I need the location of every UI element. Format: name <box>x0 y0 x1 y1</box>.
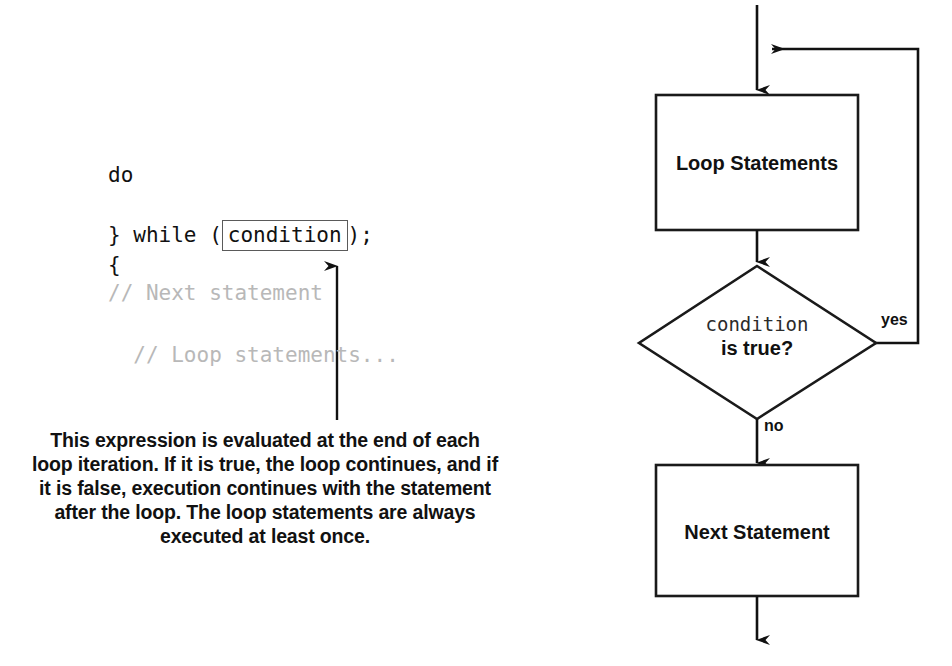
code-line-do: do <box>108 160 399 190</box>
code-listing: do { // Loop statements... <box>108 100 399 430</box>
caption-false-word: false <box>77 477 121 499</box>
diagram-page: do { // Loop statements... } while ( con… <box>0 0 952 666</box>
next-statement-label: Next Statement <box>657 521 857 544</box>
code-line-next-comment: // Next statement <box>108 281 323 305</box>
code-line-open-brace: { <box>108 250 399 280</box>
condition-highlight-box[interactable]: condition <box>222 220 348 251</box>
decision-question-text: is true? <box>657 336 857 360</box>
while-prefix: } while ( <box>108 216 222 254</box>
code-line-while: } while ( condition ); <box>108 216 373 254</box>
caption-text: This expression is evaluated at the end … <box>30 428 500 548</box>
edge-label-no: no <box>764 417 784 435</box>
while-suffix: ); <box>348 216 373 254</box>
loop-statements-label: Loop Statements <box>657 152 857 175</box>
decision-condition-text: condition <box>657 312 857 336</box>
caption-true-word: true <box>219 453 255 475</box>
decision-label: condition is true? <box>657 312 857 360</box>
code-line-loop-comment: // Loop statements... <box>108 340 399 370</box>
edge-label-yes: yes <box>881 311 908 329</box>
